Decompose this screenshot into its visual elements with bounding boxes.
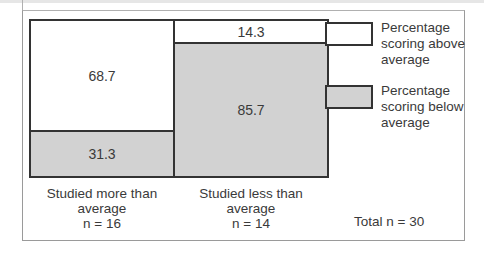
legend-line: Percentage	[381, 83, 464, 99]
cell-more-below: 31.3	[31, 132, 173, 176]
row-divider	[31, 130, 173, 132]
n-label: n = 14	[174, 216, 328, 231]
row-divider	[175, 42, 327, 44]
legend-swatch-below	[325, 85, 373, 109]
value-label: 14.3	[237, 24, 264, 40]
legend-line: Percentage	[381, 20, 465, 36]
legend-label-below: Percentage scoring below average	[381, 83, 464, 131]
legend-label-above: Percentage scoring above average	[381, 20, 465, 68]
x-label-less: Studied less than average n = 14	[174, 186, 328, 231]
value-label: 85.7	[237, 102, 264, 118]
value-label: 68.7	[88, 68, 115, 84]
legend-line: average	[381, 52, 465, 68]
frame-edge	[22, 0, 23, 10]
cell-less-above: 14.3	[175, 21, 327, 42]
x-label-line: Studied more than	[30, 186, 174, 201]
cell-more-above: 68.7	[31, 21, 173, 130]
legend-swatch-above	[325, 22, 373, 46]
cell-less-below: 85.7	[175, 44, 327, 176]
legend-line: scoring below	[381, 99, 464, 115]
x-label-line: average	[174, 201, 328, 216]
top-strip	[0, 0, 484, 3]
x-label-more: Studied more than average n = 16	[30, 186, 174, 231]
legend-line: scoring above	[381, 36, 465, 52]
value-label: 31.3	[88, 146, 115, 162]
mosaic-plot: 68.7 31.3 14.3 85.7	[29, 19, 329, 178]
legend-line: average	[381, 115, 464, 131]
x-label-line: Studied less than	[174, 186, 328, 201]
x-label-line: average	[30, 201, 174, 216]
total-n-label: Total n = 30	[354, 214, 424, 229]
n-label: n = 16	[30, 216, 174, 231]
